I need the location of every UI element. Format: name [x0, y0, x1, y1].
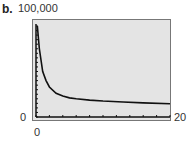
data-curve: [37, 26, 170, 104]
plot-area: [0, 0, 196, 145]
